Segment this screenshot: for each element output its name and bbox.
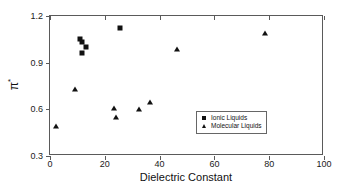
data-point xyxy=(72,87,78,92)
x-axis-title: Dielectric Constant xyxy=(49,172,323,183)
data-point xyxy=(113,115,119,120)
y-axis-title: π* xyxy=(7,79,20,90)
x-axis-tick-label: 80 xyxy=(264,160,274,169)
data-point xyxy=(79,51,84,56)
x-axis-tick-top xyxy=(160,16,161,20)
data-point xyxy=(136,107,142,112)
y-axis-tick-label: 0.9 xyxy=(30,58,43,67)
y-axis-tick xyxy=(46,63,50,64)
data-point xyxy=(174,46,180,51)
legend-label: Molecular Liquids xyxy=(211,123,262,130)
y-axis-tick-label: 1.2 xyxy=(30,12,43,21)
x-axis-tick-label: 20 xyxy=(100,160,110,169)
y-axis-tick-label: 0.6 xyxy=(30,105,43,114)
triangle-marker-icon xyxy=(200,124,208,128)
x-axis-tick-label: 100 xyxy=(316,160,331,169)
data-point xyxy=(262,31,268,36)
data-point xyxy=(83,45,88,50)
data-point xyxy=(117,26,122,31)
data-point xyxy=(53,124,59,129)
data-point xyxy=(147,99,153,104)
x-axis-tick-top xyxy=(105,16,106,20)
data-point xyxy=(111,105,117,110)
x-axis-tick-label: 40 xyxy=(155,160,165,169)
x-axis-tick-label: 0 xyxy=(47,160,52,169)
x-axis-tick-top xyxy=(269,16,270,20)
y-axis-tick xyxy=(46,109,50,110)
scatter-chart-figure: 0.30.60.91.2020406080100 Dielectric Cons… xyxy=(0,0,338,191)
x-axis-tick-top xyxy=(50,16,51,20)
plot-area: 0.30.60.91.2020406080100 xyxy=(49,15,323,155)
x-axis-tick-top xyxy=(324,16,325,20)
y-axis-tick-label: 0.3 xyxy=(30,152,43,161)
legend-item-ionic-liquids: Ionic Liquids xyxy=(200,115,262,122)
x-axis-tick-top xyxy=(214,16,215,20)
chart-legend: Ionic Liquids Molecular Liquids xyxy=(196,111,267,134)
x-axis-tick-label: 60 xyxy=(209,160,219,169)
legend-item-molecular-liquids: Molecular Liquids xyxy=(200,123,262,130)
square-marker-icon xyxy=(200,116,208,120)
legend-label: Ionic Liquids xyxy=(211,115,247,122)
